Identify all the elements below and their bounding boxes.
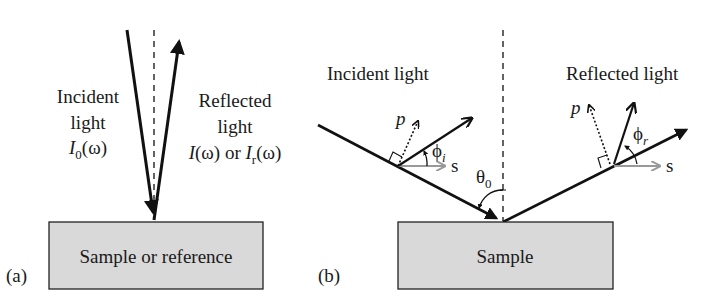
right-angle-mark-incident <box>389 152 402 161</box>
incident-light-label-b: Incident light <box>327 63 430 84</box>
panel-b: Incident light Reflected light p s ϕi θ0… <box>318 30 686 289</box>
reflected-label-a-line1: Reflected <box>199 90 272 111</box>
right-angle-mark-reflected <box>598 155 607 168</box>
p-label-incident: p <box>394 108 406 129</box>
s-label-incident: s <box>451 155 458 176</box>
incident-beam-a <box>127 30 153 212</box>
panel-a: Incident light I0(ω) Reflected light I(ω… <box>6 30 281 289</box>
theta-arc <box>479 190 503 208</box>
incident-intensity-a: I0(ω) <box>68 137 107 162</box>
p-label-reflected: p <box>569 97 581 118</box>
reflected-polarization: p s ϕr <box>569 97 673 176</box>
incident-beam-b <box>318 125 496 218</box>
phi-arc-incident <box>424 151 427 166</box>
theta-0-label: θ0 <box>476 166 492 191</box>
phi-r-label: ϕr <box>633 123 649 148</box>
reflected-label-a-line2: light <box>218 116 254 137</box>
sample-or-reference-label: Sample or reference <box>80 246 233 267</box>
reflected-beam-a <box>154 42 179 220</box>
incident-label-a-line2: light <box>71 112 107 133</box>
sample-label: Sample <box>477 246 534 267</box>
e-field-arrow-reflected <box>614 103 634 164</box>
panel-b-label: (b) <box>318 265 340 287</box>
reflected-beam-b <box>503 130 686 222</box>
phi-i-label: ϕi <box>432 140 446 165</box>
incident-polarization: p s ϕi <box>389 108 472 176</box>
incident-label-a-line1: Incident <box>57 86 120 107</box>
reflected-light-label-b: Reflected light <box>566 63 679 84</box>
reflection-diagram: Incident light I0(ω) Reflected light I(ω… <box>0 0 714 307</box>
s-label-reflected: s <box>666 155 673 176</box>
reflected-intensity-a: I(ω) or Ir(ω) <box>188 142 282 167</box>
panel-a-label: (a) <box>6 265 27 287</box>
